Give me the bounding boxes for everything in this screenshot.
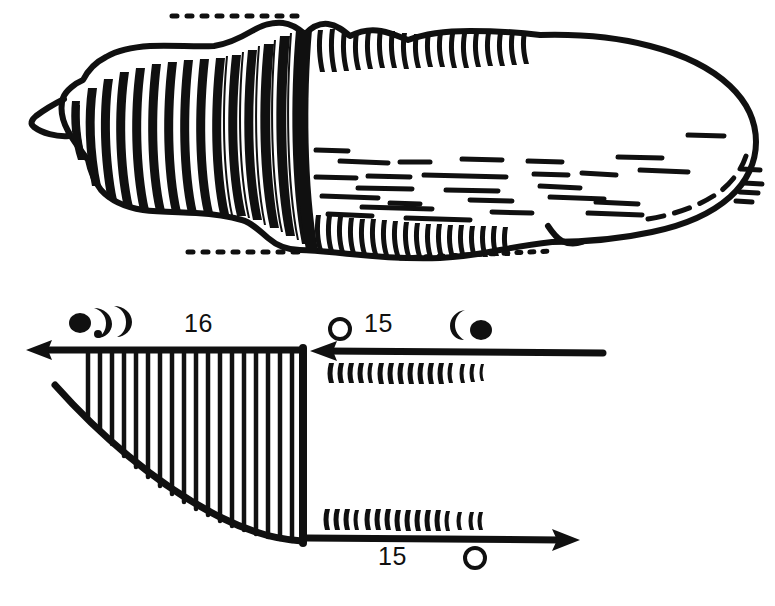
new-moon-filled-circle-icon (69, 313, 91, 333)
figure-root: 16 15 (0, 0, 775, 606)
count-15-upper-label: 15 (364, 309, 393, 337)
count-16-label: 16 (184, 309, 213, 337)
new-moon-filled-circle-icon-right (470, 320, 492, 340)
figure-canvas: 16 15 (0, 0, 775, 606)
count-15-lower-label: 15 (378, 542, 407, 570)
